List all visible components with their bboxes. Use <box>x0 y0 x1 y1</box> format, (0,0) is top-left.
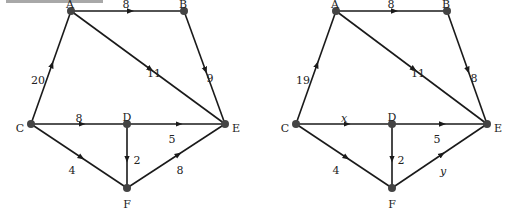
edge-B-E <box>184 11 225 124</box>
node-label: E <box>232 122 240 135</box>
edge-weight-label: 5 <box>434 133 441 146</box>
edge-weight-label: 4 <box>333 164 340 177</box>
node-F <box>123 184 131 192</box>
edge-weight-label: 9 <box>207 72 214 85</box>
edge-weight-label: 20 <box>31 74 45 87</box>
node-label: B <box>442 0 450 11</box>
node-label: E <box>494 122 502 135</box>
node-label: A <box>330 0 340 11</box>
node-label: B <box>179 0 187 11</box>
edge-weight-label: 2 <box>398 154 405 167</box>
node-label: D <box>123 111 132 124</box>
edge-weight-label: 8 <box>177 164 184 177</box>
edge-weight-label: 8 <box>471 72 478 85</box>
edge-C-F <box>296 124 392 188</box>
edge-C-A <box>31 11 71 124</box>
edge-weight-label: 8 <box>123 0 130 11</box>
edge-weight-label: 4 <box>69 164 76 177</box>
edge-B-E <box>447 11 487 124</box>
edge-weight-label: 11 <box>411 67 425 80</box>
graph-left: 81192085248ABCDEF <box>16 0 240 211</box>
network-diagrams: 81192085248ABCDEF811819x524yABCDEF <box>0 0 513 218</box>
edge-weight-label: 19 <box>296 74 310 87</box>
node-label: F <box>388 198 396 211</box>
node-E <box>483 120 491 128</box>
node-C <box>27 120 35 128</box>
node-E <box>221 120 229 128</box>
graph-right: 811819x524yABCDEF <box>281 0 502 211</box>
node-F <box>388 184 396 192</box>
edge-weight-label: 2 <box>134 154 141 167</box>
edge-weight-label: 8 <box>76 112 83 125</box>
edge-F-E <box>127 124 225 188</box>
node-label: F <box>123 198 131 211</box>
edge-C-F <box>31 124 127 188</box>
edge-weight-label: y <box>439 165 447 178</box>
node-label: C <box>281 122 289 135</box>
node-label: D <box>388 111 397 124</box>
edge-weight-label: 5 <box>169 133 176 146</box>
edge-weight-label: 8 <box>388 0 395 11</box>
node-C <box>292 120 300 128</box>
edge-C-A <box>296 11 336 124</box>
edge-weight-label: x <box>341 112 348 125</box>
edge-weight-label: 11 <box>147 67 161 80</box>
node-label: C <box>16 122 24 135</box>
node-label: A <box>65 0 75 11</box>
